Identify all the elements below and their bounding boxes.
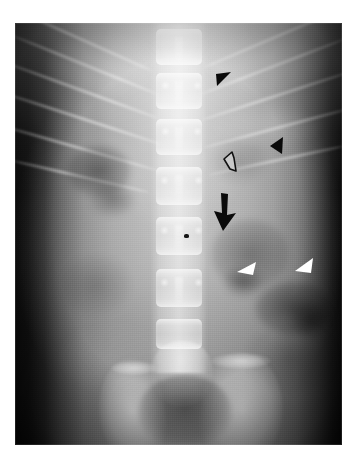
film-vignette (15, 23, 342, 445)
black-arrowhead-upper-icon (211, 70, 235, 94)
white-arrowhead-medial-icon (234, 260, 260, 282)
open-arrow-icon (221, 150, 241, 176)
screenshot-root (0, 0, 357, 467)
radiograph-image (15, 23, 342, 445)
black-arrow-large-icon (210, 191, 240, 233)
white-arrowhead-lateral-icon (292, 256, 318, 280)
black-arrowhead-lateral-icon (266, 135, 288, 157)
